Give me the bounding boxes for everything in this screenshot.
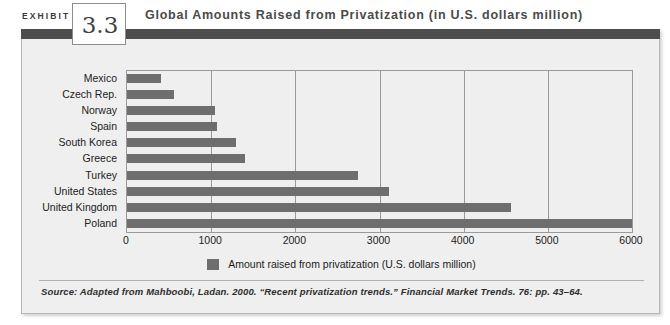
bar-row [127, 87, 632, 103]
legend-label: Amount raised from privatization (U.S. d… [228, 258, 475, 270]
bar [127, 122, 217, 131]
y-axis-category-label: Greece [22, 150, 122, 166]
bar-row [127, 71, 632, 87]
bar [127, 154, 245, 163]
exhibit-panel-inner: MexicoCzech Rep.NorwaySpainSouth KoreaGr… [22, 39, 659, 313]
x-axis-tick-label: 4000 [451, 234, 474, 246]
bar [127, 90, 174, 99]
y-axis-category-label: Turkey [22, 167, 122, 183]
bar-row [127, 168, 632, 184]
x-axis-tick-label: 3000 [367, 234, 390, 246]
exhibit-word-label: EXHIBIT [22, 11, 70, 21]
y-axis-category-label: Poland [22, 215, 122, 231]
x-axis-tick-label: 1000 [198, 234, 221, 246]
y-axis-category-labels: MexicoCzech Rep.NorwaySpainSouth KoreaGr… [22, 70, 122, 231]
source-note: Source: Adapted from Mahboobi, Ladan. 20… [41, 286, 583, 297]
bar-rows [127, 71, 632, 232]
plot-area [126, 70, 633, 233]
page-title: Global Amounts Raised from Privatization… [145, 8, 583, 22]
exhibit-panel: MexicoCzech Rep.NorwaySpainSouth KoreaGr… [21, 29, 660, 314]
exhibit-number-box: 3.3 [72, 3, 126, 45]
x-axis-tick-label: 5000 [535, 234, 558, 246]
bar-row [127, 103, 632, 119]
bar [127, 138, 236, 147]
legend-swatch-icon [207, 259, 219, 270]
y-axis-category-label: South Korea [22, 134, 122, 150]
bar [127, 106, 215, 115]
bar [127, 219, 632, 228]
x-axis-tick-labels: 0100020003000400050006000 [126, 234, 633, 250]
x-axis-tick-label: 6000 [619, 234, 642, 246]
source-divider [39, 280, 644, 281]
y-axis-category-label: Czech Rep. [22, 86, 122, 102]
exhibit-container: EXHIBIT Global Amounts Raised from Priva… [0, 0, 670, 325]
bar-row [127, 119, 632, 135]
bar [127, 171, 358, 180]
bar-row [127, 200, 632, 216]
bar-chart: MexicoCzech Rep.NorwaySpainSouth KoreaGr… [22, 39, 661, 269]
bar [127, 187, 389, 196]
bar [127, 203, 511, 212]
bar [127, 74, 161, 83]
x-axis-tick-label: 2000 [283, 234, 306, 246]
bar-row [127, 135, 632, 151]
y-axis-category-label: Norway [22, 102, 122, 118]
x-axis-tick-label: 0 [123, 234, 129, 246]
y-axis-category-label: Spain [22, 118, 122, 134]
chart-legend: Amount raised from privatization (U.S. d… [22, 255, 661, 273]
bar-row [127, 184, 632, 200]
y-axis-category-label: United States [22, 183, 122, 199]
bar-row [127, 216, 632, 232]
y-axis-category-label: United Kingdom [22, 199, 122, 215]
exhibit-number: 3.3 [73, 4, 127, 46]
y-axis-category-label: Mexico [22, 70, 122, 86]
bar-row [127, 151, 632, 167]
